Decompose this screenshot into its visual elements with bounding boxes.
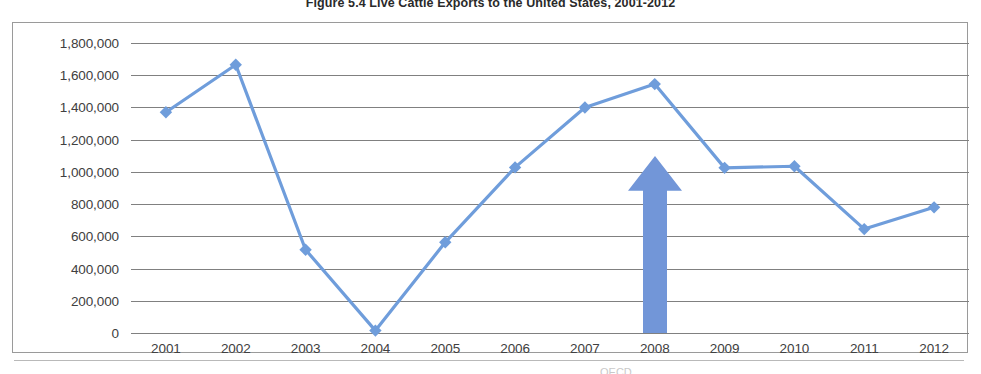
- x-tick-label: 2011: [850, 341, 879, 356]
- y-tick-label: 600,000: [71, 229, 119, 244]
- y-tick-label: 1,400,000: [60, 100, 119, 115]
- x-tick-label: 2001: [151, 341, 181, 356]
- y-tick-label: 0: [112, 326, 119, 341]
- series-line-chart: [131, 43, 969, 333]
- chart-frame: 0200,000400,000600,000800,0001,000,0001,…: [12, 22, 968, 353]
- y-tick-label: 1,600,000: [60, 68, 119, 83]
- figure-title: Figure 5.4 Live Cattle Exports to the Un…: [0, 0, 981, 11]
- footer-note: OECD: [600, 366, 632, 374]
- x-tick-label: 2008: [640, 341, 670, 356]
- x-tick-label: 2004: [361, 341, 391, 356]
- x-tick-label: 2007: [570, 341, 600, 356]
- y-tick-label: 1,200,000: [60, 132, 119, 147]
- data-point-marker: [928, 201, 940, 213]
- x-tick-label: 2010: [780, 341, 810, 356]
- figure-page: Figure 5.4 Live Cattle Exports to the Un…: [0, 0, 981, 374]
- x-tick-label: 2003: [291, 341, 321, 356]
- page-horizontal-rule: [14, 360, 964, 361]
- y-tick-label: 1,000,000: [60, 164, 119, 179]
- plot-area: [131, 43, 969, 333]
- y-axis: 0200,000400,000600,000800,0001,000,0001,…: [13, 23, 127, 354]
- gridline: [131, 333, 969, 334]
- x-axis: 2001200220032004200520062007200820092010…: [131, 341, 969, 367]
- x-tick-label: 2012: [919, 341, 949, 356]
- y-tick-label: 200,000: [71, 293, 119, 308]
- x-tick-label: 2009: [710, 341, 740, 356]
- up-arrow-icon: [625, 153, 685, 333]
- series-polyline: [166, 65, 934, 331]
- series-markers: [160, 59, 941, 337]
- y-tick-label: 400,000: [71, 261, 119, 276]
- x-tick-label: 2005: [430, 341, 460, 356]
- y-tick-label: 1,800,000: [60, 36, 119, 51]
- y-tick-label: 800,000: [71, 197, 119, 212]
- x-tick-label: 2002: [221, 341, 251, 356]
- x-tick-label: 2006: [500, 341, 530, 356]
- up-arrow-shape: [628, 156, 682, 333]
